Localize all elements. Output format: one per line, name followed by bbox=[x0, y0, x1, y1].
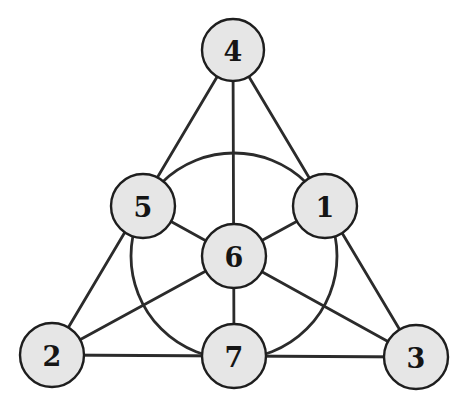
fano-plane-diagram: 4 5 1 6 2 7 3 bbox=[0, 0, 466, 415]
node-3-label: 3 bbox=[407, 343, 426, 374]
node-5: 5 bbox=[111, 174, 175, 238]
line-4-6-7 bbox=[233, 50, 234, 356]
node-2: 2 bbox=[20, 323, 84, 387]
node-6-label: 6 bbox=[225, 242, 244, 273]
node-5-label: 5 bbox=[134, 192, 153, 223]
node-3: 3 bbox=[384, 325, 448, 389]
node-4: 4 bbox=[202, 19, 264, 81]
node-1: 1 bbox=[293, 174, 357, 238]
node-7-label: 7 bbox=[225, 342, 244, 373]
node-7: 7 bbox=[202, 324, 266, 388]
node-2-label: 2 bbox=[43, 341, 62, 372]
line-1-6-2 bbox=[52, 206, 325, 355]
node-1-label: 1 bbox=[316, 192, 335, 223]
node-4-label: 4 bbox=[224, 36, 243, 67]
node-6: 6 bbox=[202, 224, 266, 288]
